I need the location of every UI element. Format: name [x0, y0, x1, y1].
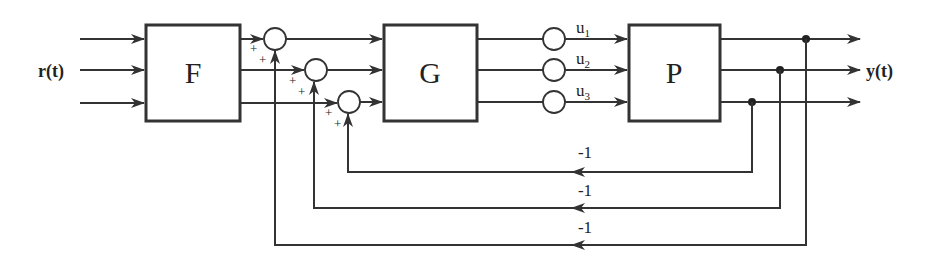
signal-label-u1: u1: [576, 18, 590, 39]
sign-s2-b: +: [298, 84, 305, 99]
u-to-p-wires: [565, 39, 627, 102]
block-p: P: [629, 25, 720, 121]
input-arrows: [80, 39, 144, 103]
feedback-gain-2: -1: [578, 181, 592, 200]
sign-s2-a: +: [289, 73, 296, 88]
block-diagram: r(t) F + + + + + + G: [0, 0, 932, 265]
signal-node-u1: [543, 28, 565, 50]
output-label: y(t): [866, 61, 893, 82]
summing-junction-3: [338, 91, 360, 113]
signal-node-u2: [543, 59, 565, 81]
g-output-wires: [477, 39, 543, 102]
summing-junction-1: [264, 28, 286, 50]
signal-label-u2: u2: [576, 49, 590, 70]
feedback-gain-1: -1: [578, 218, 592, 237]
block-g: G: [384, 25, 477, 121]
sign-s1-b: +: [259, 52, 266, 67]
feedback-gain-3: -1: [578, 143, 592, 162]
block-f: F: [146, 25, 240, 121]
output-arrows: [720, 39, 860, 102]
summing-junction-2: [305, 59, 327, 81]
block-g-label: G: [419, 56, 441, 89]
signal-node-u3: [543, 91, 565, 113]
sign-s3-b: +: [334, 116, 341, 131]
sign-s3-a: +: [325, 105, 332, 120]
block-p-label: P: [666, 56, 683, 89]
block-f-label: F: [185, 56, 202, 89]
sign-s1-a: +: [250, 41, 257, 56]
input-label: r(t): [38, 61, 64, 82]
signal-label-u3: u3: [576, 81, 591, 102]
